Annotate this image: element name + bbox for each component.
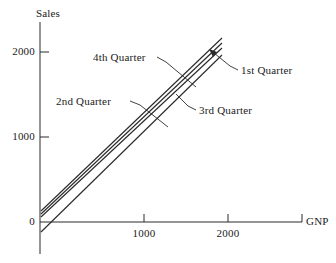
y-tick-label-0: 0	[29, 216, 35, 227]
series-label-2nd-quarter: 2nd Quarter	[56, 96, 111, 107]
series-line-1st-quarter	[41, 48, 222, 217]
y-tick-label-1000: 1000	[12, 131, 35, 142]
arrow-head-1st-quarter	[209, 49, 217, 57]
series-line-4th-quarter	[41, 38, 222, 211]
series-label-4th-quarter: 4th Quarter	[93, 52, 146, 63]
y-tick-label-2000: 2000	[12, 46, 35, 57]
x-axis-title: GNP	[306, 216, 329, 227]
leader-line-4th-quarter	[157, 57, 196, 87]
leader-line-1st-quarter	[214, 53, 238, 70]
chart-plot-area	[0, 0, 336, 263]
series-label-3rd-quarter: 3rd Quarter	[199, 105, 252, 116]
x-tick-label-2000: 2000	[217, 228, 240, 239]
leader-line-3rd-quarter	[176, 94, 196, 110]
y-axis-title: Sales	[36, 8, 60, 19]
series-label-1st-quarter: 1st Quarter	[241, 65, 292, 76]
series-line-3rd-quarter	[41, 55, 222, 232]
x-tick-label-1000: 1000	[133, 228, 156, 239]
sales-gnp-line-chart: Sales GNP 2000 1000 0 1000 2000 4th Quar…	[0, 0, 336, 263]
series-line-2nd-quarter	[41, 43, 222, 214]
